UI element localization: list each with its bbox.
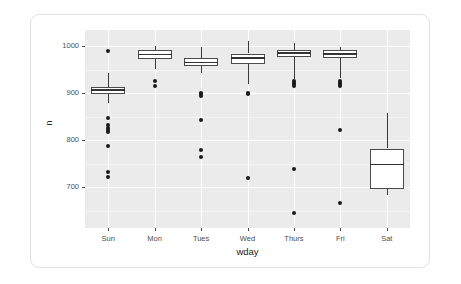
whisker-lower [108, 94, 109, 103]
outlier-point [106, 130, 110, 134]
outlier-point [106, 116, 110, 120]
x-tick-label: Wed [223, 234, 273, 243]
outlier-point [106, 170, 110, 174]
outlier-point [338, 128, 342, 132]
y-tick-mark [82, 93, 85, 94]
median-line [323, 53, 357, 55]
median-line [184, 62, 218, 64]
median-line [91, 89, 125, 91]
x-tick-mark [294, 228, 295, 231]
y-tick-label: 900 [66, 89, 79, 97]
x-tick-label: Fri [315, 234, 365, 243]
y-tick-label: 700 [66, 183, 79, 191]
outlier-point [246, 176, 250, 180]
y-axis-label: n [44, 120, 54, 125]
outlier-point [338, 84, 342, 88]
median-line [277, 52, 311, 54]
x-tick-mark [248, 228, 249, 231]
median-line [231, 57, 265, 59]
outlier-point [153, 84, 157, 88]
outlier-point [106, 175, 110, 179]
x-tick-label: Mon [130, 234, 180, 243]
outlier-point [292, 84, 296, 88]
outlier-point [338, 201, 342, 205]
median-line [138, 54, 172, 56]
x-tick-label: Tues [176, 234, 226, 243]
whisker-lower [340, 58, 341, 78]
box-sat [370, 149, 404, 190]
x-tick-label: Thurs [269, 234, 319, 243]
outlier-point [292, 167, 296, 171]
whisker-lower [155, 59, 156, 70]
x-tick-mark [387, 228, 388, 231]
x-tick-mark [201, 228, 202, 231]
outlier-point [199, 94, 203, 98]
x-tick-mark [108, 228, 109, 231]
median-line [370, 164, 404, 166]
whisker-lower [387, 189, 388, 195]
whisker-lower [248, 64, 249, 84]
whisker-upper [201, 47, 202, 58]
x-tick-label: Sat [362, 234, 412, 243]
outlier-point [199, 155, 203, 159]
y-tick-mark [82, 46, 85, 47]
x-tick-mark [155, 228, 156, 231]
outlier-point [246, 92, 250, 96]
outlier-point [199, 118, 203, 122]
y-tick-label: 800 [66, 136, 79, 144]
outlier-point [199, 148, 203, 152]
whisker-upper [387, 113, 388, 149]
plot-figure: 7008009001000SunMonTuesWedThursFriSat n … [0, 0, 461, 284]
outlier-point [106, 144, 110, 148]
x-tick-label: Sun [83, 234, 133, 243]
whisker-upper [248, 41, 249, 54]
whisker-lower [294, 57, 295, 79]
y-tick-label: 1000 [62, 42, 79, 50]
x-axis-label: wday [85, 246, 410, 257]
plot-panel [85, 30, 410, 228]
whisker-upper [108, 73, 109, 87]
y-tick-mark [82, 187, 85, 188]
outlier-point [292, 211, 296, 215]
outlier-point [106, 49, 110, 53]
x-tick-mark [340, 228, 341, 231]
whisker-upper [294, 43, 295, 50]
whisker-lower [201, 66, 202, 73]
outlier-point [153, 79, 157, 83]
y-tick-mark [82, 140, 85, 141]
